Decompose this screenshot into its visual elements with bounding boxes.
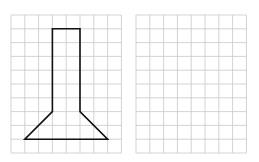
grid-diagram — [0, 0, 259, 162]
right-grid — [136, 15, 246, 153]
left-grid — [11, 15, 121, 153]
